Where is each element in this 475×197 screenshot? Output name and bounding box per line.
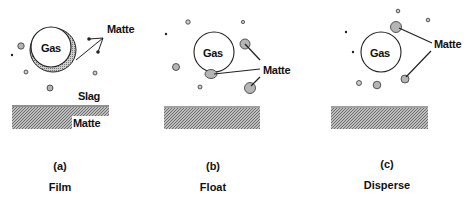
matte-droplet <box>173 64 180 71</box>
matte-droplet <box>391 22 402 33</box>
matte-droplet <box>241 20 244 23</box>
matte-droplet <box>245 83 256 94</box>
gas-label: Gas <box>370 47 390 59</box>
panel-b-float: Gas Matte (b) Float <box>164 20 290 193</box>
matte-bath <box>164 108 260 129</box>
matte-droplet <box>373 81 381 89</box>
matte-droplet <box>426 18 430 22</box>
matte-droplet <box>357 81 362 86</box>
matte-bath <box>331 108 428 129</box>
panel-a-film: Gas Matte Slag Matte (a) Film <box>11 23 135 193</box>
bath-matte-label: Matte <box>73 117 100 129</box>
matte-label: Matte <box>107 23 134 35</box>
matte-droplet <box>47 85 53 91</box>
matte-droplet <box>165 33 167 35</box>
panel-c-disperse: Gas Matte (c) Disperse <box>331 9 461 191</box>
matte-droplet <box>352 51 354 53</box>
slag-label: Slag <box>78 90 100 102</box>
matte-pointer <box>399 28 432 77</box>
matte-pointer <box>76 38 103 60</box>
panel-letter: (a) <box>53 160 67 172</box>
gas-label: Gas <box>203 47 223 59</box>
panel-caption: Float <box>200 181 227 193</box>
matte-droplet <box>401 75 409 83</box>
matte-droplet <box>186 20 190 24</box>
matte-droplet <box>198 85 202 89</box>
matte-label: Matte <box>434 38 461 50</box>
panel-letter: (c) <box>380 158 394 170</box>
matte-droplet <box>18 43 24 49</box>
matte-droplet <box>93 71 97 75</box>
matte-droplet <box>345 31 347 33</box>
panel-letter: (b) <box>206 160 220 172</box>
matte-droplet <box>11 54 13 56</box>
panel-caption: Film <box>49 181 72 193</box>
matte-droplet <box>24 70 28 74</box>
gas-label: Gas <box>41 42 61 54</box>
matte-droplet <box>396 9 400 13</box>
diagram-canvas: Gas Matte Slag Matte (a) Film Gas <box>0 0 475 197</box>
panel-caption: Disperse <box>364 179 410 191</box>
matte-label: Matte <box>263 64 290 76</box>
